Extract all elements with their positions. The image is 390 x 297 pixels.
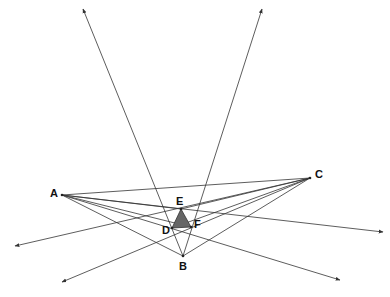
morley-diagram: [0, 0, 390, 297]
segment-ae: [62, 195, 181, 209]
triangle-abc: [62, 178, 310, 256]
label-b: B: [179, 261, 187, 272]
label-d: D: [162, 225, 170, 236]
label-f: F: [194, 219, 201, 230]
ray-a-3: [62, 195, 340, 280]
vertex-a: [61, 194, 64, 197]
trisector-rays: [15, 9, 383, 282]
morley-triangle-def: [172, 209, 191, 228]
vertex-dots: [61, 177, 312, 258]
vertex-e: [180, 208, 183, 211]
label-a: A: [50, 188, 58, 199]
segment-af: [62, 195, 191, 227]
label-e: E: [176, 196, 183, 207]
vertex-c: [309, 177, 312, 180]
vertex-d: [171, 227, 174, 230]
label-c: C: [315, 169, 323, 180]
vertex-b: [182, 255, 185, 258]
vertex-f: [190, 226, 193, 229]
